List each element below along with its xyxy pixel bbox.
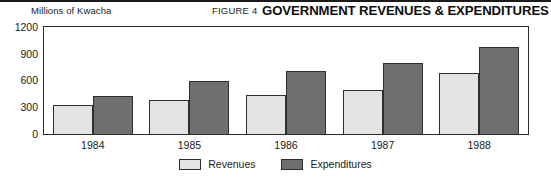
legend-label-expenditures: Expenditures <box>310 158 371 170</box>
bar-group <box>238 28 335 135</box>
x-axis-tick-label: 1986 <box>238 139 335 155</box>
legend-swatch-expenditures <box>281 159 303 170</box>
chart-legend: RevenuesExpenditures <box>0 158 551 170</box>
legend-label-revenues: Revenues <box>208 158 255 170</box>
y-axis: 12009006003000 <box>0 20 41 142</box>
legend-swatch-revenues <box>179 159 201 170</box>
bar-revenues-1985[interactable] <box>149 100 189 134</box>
bar-revenues-1987[interactable] <box>343 90 383 134</box>
y-axis-tick-label: 900 <box>20 49 38 60</box>
x-axis-tick-label: 1987 <box>334 139 431 155</box>
bar-group <box>431 28 528 135</box>
bar-group <box>334 28 431 135</box>
bar-revenues-1986[interactable] <box>246 95 286 134</box>
bar-expenditures-1985[interactable] <box>189 81 229 134</box>
legend-item-revenues[interactable]: Revenues <box>179 158 255 170</box>
y-axis-tick-label: 600 <box>20 75 38 86</box>
x-axis: 19841985198619871988 <box>45 139 528 155</box>
bar-groups <box>45 28 528 135</box>
figure-number-label: FIGURE 4 <box>212 5 257 16</box>
legend-item-expenditures[interactable]: Expenditures <box>281 158 371 170</box>
plot-area <box>45 28 528 135</box>
bar-group <box>141 28 238 135</box>
bar-group <box>45 28 142 135</box>
y-axis-tick-label: 1200 <box>15 22 38 33</box>
bar-expenditures-1986[interactable] <box>286 71 326 134</box>
x-axis-tick-label: 1985 <box>141 139 238 155</box>
x-axis-tick-label: 1984 <box>45 139 142 155</box>
bar-expenditures-1987[interactable] <box>383 63 423 134</box>
y-axis-tick-label: 300 <box>20 102 38 113</box>
x-axis-tick-label: 1988 <box>431 139 528 155</box>
bar-revenues-1984[interactable] <box>53 105 93 134</box>
bar-expenditures-1984[interactable] <box>93 96 133 134</box>
figure-title: GOVERNMENT REVENUES & EXPENDITURES <box>262 3 549 18</box>
bar-revenues-1988[interactable] <box>439 73 479 134</box>
y-axis-tick-label: 0 <box>32 129 38 140</box>
figure-container: Millions of Kwacha FIGURE 4 GOVERNMENT R… <box>0 0 551 179</box>
bar-expenditures-1988[interactable] <box>479 47 519 134</box>
top-divider <box>0 0 551 2</box>
y-axis-unit-label: Millions of Kwacha <box>31 5 111 16</box>
